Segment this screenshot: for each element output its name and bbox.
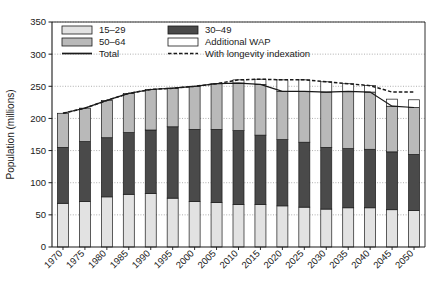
bar-segment	[321, 82, 332, 92]
bar-segment	[277, 91, 288, 139]
bar-segment	[299, 91, 310, 142]
legend-dark-gray-swatch	[168, 26, 198, 34]
bar-segment	[343, 91, 354, 148]
bar-segment	[365, 208, 376, 247]
bar-segment	[79, 108, 90, 141]
bar-segment	[57, 147, 68, 203]
bar-segment	[123, 93, 134, 132]
bar-segment	[277, 140, 288, 206]
bar-segment	[211, 129, 222, 202]
bar-segment	[387, 106, 398, 152]
y-tick-label: 150	[30, 145, 46, 156]
bar-segment	[101, 100, 112, 137]
y-tick-label: 0	[41, 241, 46, 252]
bar-segment	[387, 99, 398, 106]
bar-segment	[123, 194, 134, 247]
bar-segment	[57, 113, 68, 147]
legend-label: With longevity indexation	[205, 48, 310, 59]
bar-segment	[101, 138, 112, 197]
bar-segment	[123, 133, 134, 195]
bar-segment	[299, 80, 310, 92]
bar-segment	[365, 149, 376, 208]
legend-label: 15–29	[99, 24, 125, 35]
legend-label: Total	[99, 48, 119, 59]
bar-segment	[167, 88, 178, 127]
y-tick-label: 350	[30, 16, 46, 27]
bar-segment	[365, 92, 376, 149]
population-stacked-bar-chart: 050100150200250300350 197019751980198519…	[0, 0, 440, 286]
legend-label: 50–64	[99, 36, 125, 47]
bar-segment	[277, 206, 288, 247]
bar-segment	[409, 154, 420, 210]
bar-segment	[189, 201, 200, 247]
y-tick-label: 50	[35, 209, 46, 220]
bar-segment	[387, 152, 398, 210]
bar-series-group	[57, 79, 419, 247]
bar-segment	[321, 147, 332, 209]
bar-segment	[299, 142, 310, 207]
bar-segment	[145, 90, 156, 131]
bar-segment	[167, 127, 178, 198]
bar-segment	[233, 83, 244, 131]
y-axis-title-label: Population (millions)	[5, 89, 16, 179]
bar-segment	[189, 86, 200, 129]
bar-segment	[409, 100, 420, 108]
legend-light-gray-swatch	[62, 26, 92, 34]
bar-segment	[211, 84, 222, 130]
bar-segment	[409, 210, 420, 247]
bar-segment	[343, 149, 354, 208]
bar-segment	[145, 194, 156, 247]
legend-label: 30–49	[205, 24, 231, 35]
bar-segment	[321, 209, 332, 247]
y-tick-label: 100	[30, 177, 46, 188]
legend-label: Additional WAP	[205, 36, 271, 47]
legend-medium-gray-swatch	[62, 38, 92, 46]
bar-segment	[101, 197, 112, 247]
bar-segment	[321, 92, 332, 147]
y-tick-label: 200	[30, 113, 46, 124]
bar-segment	[145, 130, 156, 194]
bar-segment	[343, 84, 354, 92]
bar-segment	[211, 203, 222, 247]
bar-segment	[167, 198, 178, 247]
bar-segment	[79, 201, 90, 247]
bar-segment	[255, 135, 266, 204]
bar-segment	[343, 208, 354, 247]
bar-segment	[233, 131, 244, 205]
bar-segment	[79, 142, 90, 202]
bar-segment	[189, 129, 200, 201]
legend-white-swatch	[168, 38, 198, 46]
bar-segment	[233, 205, 244, 247]
bar-segment	[255, 205, 266, 247]
y-axis-title: Population (millions)	[5, 89, 16, 179]
bar-segment	[299, 207, 310, 247]
bar-segment	[57, 203, 68, 247]
chart-canvas: 050100150200250300350 197019751980198519…	[0, 0, 440, 286]
y-tick-label: 250	[30, 81, 46, 92]
y-tick-label: 300	[30, 49, 46, 60]
bar-segment	[409, 108, 420, 155]
bar-segment	[255, 84, 266, 135]
bar-segment	[387, 210, 398, 247]
